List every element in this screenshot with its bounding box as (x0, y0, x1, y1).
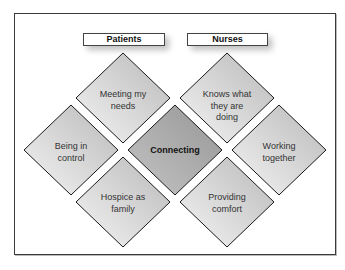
node-hospice-as-family: Hospice as family (95, 192, 151, 215)
node-being-in-control: Being in control (48, 141, 94, 164)
node-providing-comfort: Providing comfort (202, 192, 252, 215)
node-connecting: Connecting (140, 145, 210, 157)
node-meeting-my-needs: Meeting my needs (95, 89, 151, 112)
node-knows-what-they-are-doing: Knows what they are doing (200, 89, 254, 124)
node-working-together: Working together (256, 141, 302, 164)
diamond-layer (0, 0, 345, 270)
